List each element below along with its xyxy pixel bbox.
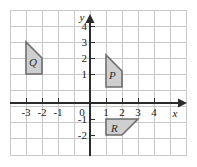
x-axis-name-label: x (172, 107, 178, 119)
x-tick-label-2: 2 (119, 106, 125, 118)
y-tick-label-3: 3 (82, 36, 88, 48)
x-tick-label--2: -2 (37, 106, 46, 118)
y-axis-name-label: y (79, 11, 85, 23)
coordinate-plane: Q P R (0, 0, 197, 167)
x-tick-label-4: 4 (151, 106, 157, 118)
y-tick-label-2: 2 (82, 52, 88, 64)
y-tick-label--2: -2 (78, 129, 87, 141)
x-tick-label--3: -3 (21, 106, 31, 118)
y-tick-label--1: -1 (78, 113, 87, 125)
figure-background (0, 0, 197, 167)
x-tick-label-1: 1 (103, 106, 109, 118)
shape-label-r: R (110, 122, 118, 134)
y-tick-label-1: 1 (82, 68, 88, 80)
x-tick-label--1: -1 (53, 106, 62, 118)
x-tick-label-3: 3 (135, 106, 141, 118)
shape-label-p: P (108, 69, 116, 81)
coordinate-grid-figure: Q P R (0, 0, 197, 167)
shape-label-q: Q (29, 56, 37, 68)
